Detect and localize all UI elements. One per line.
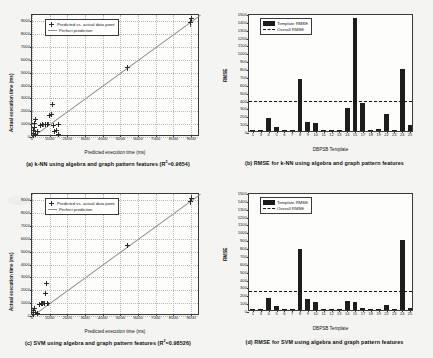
legend-label: Predicted vs. actual data point: [57, 22, 115, 27]
y-axis-tick-label: 1500: [238, 13, 247, 17]
x-axis-tick-label: 6000: [133, 137, 142, 141]
x-axis-tick-label: 18: [369, 133, 373, 137]
x-axis-tick-label: 11: [322, 312, 326, 316]
tick-mark: [247, 194, 249, 195]
panel-b-xlabel: DBPSB Template: [248, 147, 413, 152]
bar: [345, 301, 350, 310]
panel-c-ylabel: Actual execution time (ms): [9, 253, 14, 311]
data-point: [43, 291, 48, 296]
bar: [266, 118, 271, 131]
x-axis-tick-label: 2000: [63, 316, 72, 320]
x-axis-tick-label: 5000: [116, 316, 125, 320]
data-point: [44, 281, 49, 286]
tick-mark: [247, 281, 249, 282]
x-axis-tick-label: 23: [392, 312, 396, 316]
data-point: [45, 301, 50, 306]
tick-mark: [247, 218, 249, 219]
bar: [345, 108, 350, 131]
x-axis-tick-label: 10: [314, 312, 318, 316]
panel-a-ylabel: Actual execution time (ms): [9, 74, 14, 132]
x-axis-tick-label: 24: [400, 312, 404, 316]
tick-mark: [247, 233, 249, 234]
y-axis-tick-label: 800: [240, 68, 247, 72]
bar: [266, 298, 271, 310]
bar: [305, 299, 310, 310]
legend-label: Perfect prediction: [59, 28, 92, 33]
bar: [360, 103, 365, 131]
x-axis-tick-label: 12: [329, 312, 333, 316]
panel-a: Actual execution time (ms) 0100020003000…: [0, 0, 216, 179]
x-axis-tick-label: 9: [307, 133, 309, 137]
legend-label: Predicted vs. actual data point: [57, 201, 115, 206]
tick-mark: [247, 46, 249, 47]
y-axis-tick-label: 900: [240, 60, 247, 64]
panel-a-caption-suffix: =0.9654): [168, 161, 190, 167]
x-axis-tick-label: 22: [384, 133, 388, 137]
x-axis-tick-label: 8: [299, 133, 301, 137]
x-axis-tick-label: 4: [268, 312, 270, 316]
x-axis-tick-label: 3000: [80, 316, 89, 320]
y-axis-tick-label: 3000: [21, 96, 30, 100]
legend-label: Perfect prediction: [59, 207, 92, 212]
grid-line: [120, 194, 121, 314]
tick-mark: [247, 125, 249, 126]
tick-mark: [247, 117, 249, 118]
panel-c-legend: Predicted vs. actual data point Perfect …: [45, 198, 119, 215]
tick-mark: [247, 288, 249, 289]
tick-mark: [247, 257, 249, 258]
y-axis-tick-label: 6000: [21, 58, 30, 62]
data-point: [125, 243, 130, 248]
y-axis-tick-label: 1300: [238, 208, 247, 212]
x-axis-tick-label: 5: [275, 312, 277, 316]
x-axis-tick-label: 3: [260, 312, 262, 316]
tick-mark: [247, 273, 249, 274]
y-axis-tick-label: 9000: [21, 198, 30, 202]
y-axis-tick-label: 1000: [238, 52, 247, 56]
bar: [313, 123, 318, 131]
y-axis-tick-label: 400: [240, 99, 247, 103]
y-axis-tick-label: 700: [240, 255, 247, 259]
bar: [298, 79, 303, 131]
y-axis-tick-label: 200: [240, 115, 247, 119]
tick-mark: [247, 62, 249, 63]
y-axis-tick-label: 600: [240, 84, 247, 88]
x-axis-tick-label: 12: [329, 133, 333, 137]
overall-rmse-line-icon: [263, 27, 275, 32]
panel-a-caption-text: (a) k-NN using algebra and graph pattern…: [26, 161, 165, 167]
legend-label: Overall RMSE: [277, 206, 304, 211]
y-axis-tick-label: 300: [240, 286, 247, 290]
x-axis-tick-label: 22: [384, 312, 388, 316]
x-axis-tick-label: 18: [369, 312, 373, 316]
panel-c-caption-suffix: =0.98526): [166, 340, 191, 346]
tick-mark: [247, 39, 249, 40]
template-rmse-swatch-icon: [263, 200, 275, 205]
x-axis-tick-label: 3000: [80, 137, 89, 141]
y-axis-tick-label: 4000: [21, 84, 30, 88]
data-point: [50, 102, 55, 107]
data-point: [35, 311, 40, 316]
x-axis-tick-label: 10: [314, 133, 318, 137]
legend-item: Predicted vs. actual data point: [48, 201, 115, 207]
x-axis-tick-label: 7000: [151, 137, 160, 141]
overall-rmse-line: [249, 101, 412, 102]
tick-mark: [247, 31, 249, 32]
y-axis-tick-label: 400: [240, 278, 247, 282]
grid-line: [138, 15, 139, 135]
y-axis-tick-label: 3000: [21, 275, 30, 279]
panel-c: Actual execution time (ms) 0100020003000…: [0, 179, 216, 358]
bar: [384, 114, 389, 131]
grid-line: [120, 15, 121, 135]
bar: [400, 69, 405, 131]
y-axis-tick-label: 500: [240, 92, 247, 96]
data-point: [56, 132, 61, 137]
x-axis-tick-label: 25: [408, 312, 412, 316]
overall-rmse-line-icon: [263, 206, 275, 211]
legend-item: Predicted vs. actual data point: [48, 22, 115, 28]
x-axis-tick-label: 8000: [169, 137, 178, 141]
x-axis-tick-label: 3: [260, 133, 262, 137]
x-axis-tick-label: 9000: [186, 137, 195, 141]
panel-d-legend: Template RMSE Overall RMSE: [260, 197, 312, 214]
x-axis-tick-label: 6: [283, 133, 285, 137]
data-point: [49, 112, 54, 117]
y-axis-tick-label: 0: [245, 310, 247, 314]
